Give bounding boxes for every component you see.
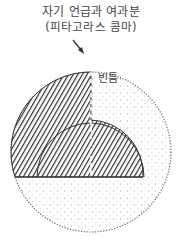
diagram [0, 0, 182, 246]
arrow-icon [73, 40, 84, 54]
gap-label: 빈틈 [98, 69, 118, 85]
